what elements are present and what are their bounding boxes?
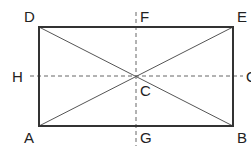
label-g: G xyxy=(140,129,152,146)
label-c: C xyxy=(140,82,151,99)
label-d: D xyxy=(24,8,35,25)
label-b: B xyxy=(237,129,247,146)
label-f: F xyxy=(140,8,149,25)
label-h: H xyxy=(12,68,23,85)
label-e: E xyxy=(237,8,247,25)
label-i-clipped: O xyxy=(246,68,251,85)
geometry-diagram: D F E H C O A G B xyxy=(0,0,251,151)
label-a: A xyxy=(24,129,34,146)
